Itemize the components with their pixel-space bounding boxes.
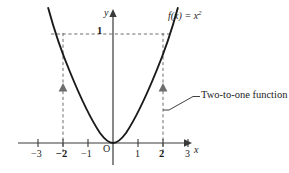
two-to-one-annotation: Two-to-one function [201, 90, 287, 101]
x-tick-label-neg3: −3 [31, 149, 42, 159]
origin-label: O [103, 144, 110, 154]
y-axis-label: y [104, 8, 108, 18]
x-tick-label-3: 3 [185, 149, 190, 159]
graph-canvas [0, 0, 289, 173]
x-tick-label-neg1: −1 [81, 149, 92, 159]
direction-marker-left-icon [59, 83, 68, 92]
function-label: f(x) = x2 [168, 10, 202, 21]
x-tick-label-2: 2 [159, 149, 164, 160]
x-tick-label-1: 1 [135, 149, 140, 159]
x-axis-label: x [194, 145, 198, 155]
math-figure: −3 −2 −1 1 2 3 O x y 1 f(x) = x2 Two-to-… [0, 0, 289, 173]
annotation-leader-line [163, 97, 200, 111]
x-tick-label-neg2: −2 [56, 149, 67, 160]
function-label-text: f(x) = x [168, 10, 198, 21]
y-value-label-1: 1 [97, 26, 102, 37]
function-label-exponent: 2 [198, 9, 202, 17]
y-axis-arrow-icon [109, 9, 116, 17]
direction-marker-right-icon [159, 83, 168, 92]
